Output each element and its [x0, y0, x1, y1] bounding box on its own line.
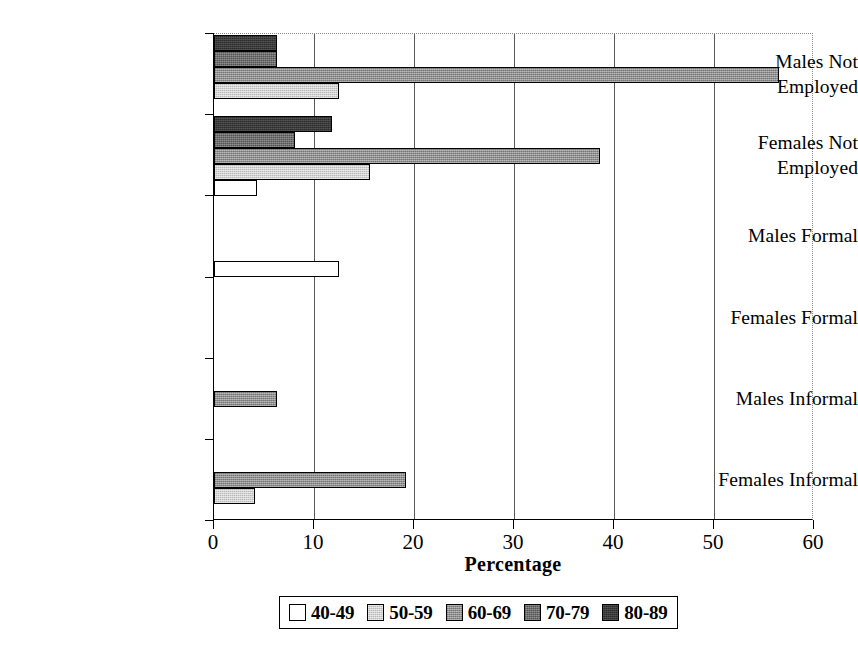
- x-axis-tick-label-40: 40: [583, 529, 643, 555]
- x-axis-tick-10: [313, 520, 314, 529]
- x-axis-tick-label-20: 20: [383, 529, 443, 555]
- legend-label-70-79: 70-79: [546, 602, 589, 624]
- y-axis-label-males-formal: Males Formal: [666, 223, 858, 248]
- x-axis-tick-40: [613, 520, 614, 529]
- bar-females-not-employed-70-79: [214, 132, 295, 148]
- bar-females-not-employed-80-89: [214, 116, 332, 132]
- y-axis-tick-1: [205, 114, 214, 115]
- y-axis-label-females-informal: Females Informal: [666, 467, 858, 492]
- bar-males-not-employed-50-59: [214, 83, 339, 99]
- gridline-30: [514, 34, 515, 519]
- x-axis-tick-20: [413, 520, 414, 529]
- bar-females-informal-50-59: [214, 488, 255, 504]
- legend-entry-60-69: 60-69: [446, 602, 511, 624]
- y-axis-tick-3: [205, 277, 214, 278]
- y-axis-label-females-formal: Females Formal: [666, 305, 858, 330]
- legend-swatch-40-49: [289, 604, 306, 621]
- legend-label-60-69: 60-69: [468, 602, 511, 624]
- legend-swatch-50-59: [367, 604, 384, 621]
- legend-entry-80-89: 80-89: [602, 602, 667, 624]
- plot-area: [213, 33, 813, 520]
- legend-label-40-49: 40-49: [311, 602, 354, 624]
- x-axis-tick-50: [713, 520, 714, 529]
- legend-entry-50-59: 50-59: [367, 602, 432, 624]
- x-axis-tick-label-60: 60: [783, 529, 843, 555]
- y-axis-label-males-informal: Males Informal: [666, 386, 858, 411]
- chart-legend: 40-4950-5960-6970-7980-89: [279, 596, 678, 629]
- legend-swatch-80-89: [602, 604, 619, 621]
- x-axis-tick-label-0: 0: [183, 529, 243, 555]
- y-axis-tick-0: [205, 33, 214, 34]
- x-axis-title: Percentage: [213, 553, 813, 576]
- gridline-50: [714, 34, 715, 519]
- x-axis-tick-label-30: 30: [483, 529, 543, 555]
- y-axis-tick-2: [205, 195, 214, 196]
- bar-females-not-employed-60-69: [214, 148, 600, 164]
- legend-entry-70-79: 70-79: [524, 602, 589, 624]
- y-axis-tick-5: [205, 439, 214, 440]
- bar-males-not-employed-70-79: [214, 51, 277, 67]
- bar-females-informal-60-69: [214, 472, 406, 488]
- x-axis-tick-label-50: 50: [683, 529, 743, 555]
- horizontal-bar-chart: Males NotEmployedFemales NotEmployedMale…: [0, 0, 858, 669]
- legend-swatch-60-69: [446, 604, 463, 621]
- gridline-20: [414, 34, 415, 519]
- y-axis-tick-4: [205, 358, 214, 359]
- x-axis-tick-30: [513, 520, 514, 529]
- bar-males-formal-40-49: [214, 261, 339, 277]
- x-axis-tick-60: [813, 520, 814, 529]
- legend-label-50-59: 50-59: [389, 602, 432, 624]
- legend-swatch-70-79: [524, 604, 541, 621]
- legend-label-80-89: 80-89: [624, 602, 667, 624]
- x-axis-tick-0: [213, 520, 214, 529]
- bar-males-informal-60-69: [214, 391, 277, 407]
- y-axis-label-females-not-employed: Females NotEmployed: [666, 130, 858, 180]
- y-axis-label-males-not-employed: Males NotEmployed: [666, 49, 858, 99]
- x-axis-tick-label-10: 10: [283, 529, 343, 555]
- legend-entry-40-49: 40-49: [289, 602, 354, 624]
- bar-males-not-employed-80-89: [214, 35, 277, 51]
- bar-females-not-employed-50-59: [214, 164, 370, 180]
- bar-females-not-employed-40-49: [214, 180, 257, 196]
- gridline-40: [614, 34, 615, 519]
